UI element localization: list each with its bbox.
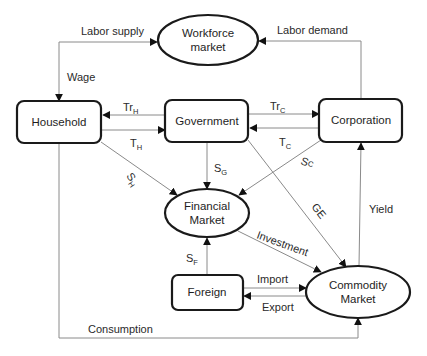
label-tr-c-sub: C (280, 106, 286, 115)
label-tr-h: TrH (123, 101, 138, 116)
label-t-h: TH (130, 137, 142, 152)
label-yield: Yield (369, 203, 393, 215)
label-t-c: TC (279, 136, 292, 151)
label-tr-h-sub: H (133, 107, 138, 116)
label-s-g-main: S (214, 162, 221, 174)
diagram-canvas: Workforce market Household Government Co… (0, 0, 427, 356)
label-s-g: SG (214, 162, 227, 177)
label-s-h: SH (122, 170, 142, 189)
economic-flow-diagram: Workforce market Household Government Co… (0, 0, 427, 356)
node-foreign-label: Foreign (188, 286, 227, 298)
edge-labor-demand (259, 41, 361, 99)
label-s-f-sub: F (193, 258, 198, 267)
label-tr-c: TrC (270, 100, 286, 115)
label-s-f: SF (186, 252, 198, 267)
label-tr-c-main: Tr (270, 100, 280, 112)
node-commodity-line1: Commodity (329, 279, 387, 291)
label-s-f-main: S (186, 252, 193, 264)
node-foreign[interactable]: Foreign (172, 275, 243, 310)
node-commodity-line2: Market (340, 293, 376, 305)
label-export: Export (262, 301, 294, 313)
node-workforce-line1: Workforce (182, 27, 234, 39)
node-household-label: Household (32, 116, 87, 128)
label-s-c: SC (299, 155, 316, 171)
label-import: Import (257, 273, 288, 285)
node-financial-market[interactable]: Financial Market (165, 189, 249, 237)
label-tr-h-main: Tr (123, 101, 133, 113)
node-corporation-label: Corporation (331, 114, 391, 126)
node-corporation[interactable]: Corporation (319, 99, 402, 142)
node-workforce-market[interactable]: Workforce market (158, 15, 258, 65)
label-t-c-sub: C (286, 142, 292, 151)
node-commodity-market[interactable]: Commodity Market (306, 266, 410, 318)
label-s-g-sub: G (221, 168, 227, 177)
label-labor-supply: Labor supply (81, 25, 144, 37)
node-workforce-line2: market (190, 41, 226, 53)
label-wage: Wage (67, 71, 95, 83)
label-labor-demand: Labor demand (277, 24, 348, 36)
node-household[interactable]: Household (17, 101, 101, 143)
node-government[interactable]: Government (165, 100, 248, 142)
label-consumption: Consumption (88, 323, 153, 335)
node-financial-line1: Financial (184, 200, 230, 212)
label-ge: GE (309, 201, 328, 221)
node-financial-line2: Market (189, 214, 225, 226)
edge-yield (359, 143, 361, 266)
label-t-h-sub: H (137, 143, 142, 152)
node-government-label: Government (175, 115, 239, 127)
